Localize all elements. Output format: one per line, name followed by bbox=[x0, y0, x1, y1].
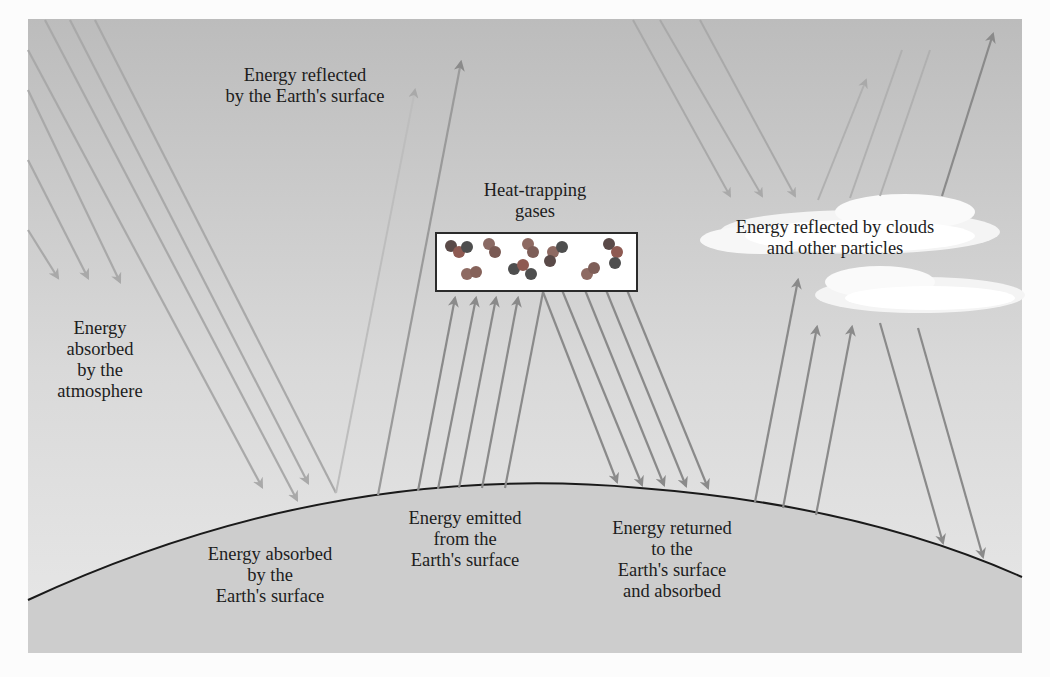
label-absorbed-by-atmosphere: Energy absorbed by the atmosphere bbox=[35, 318, 165, 402]
label-reflected-by-surface: Energy reflected by the Earth's surface bbox=[200, 65, 410, 107]
label-absorbed-by-surface: Energy absorbed by the Earth's surface bbox=[180, 544, 360, 607]
heat-trapping-gases-box bbox=[435, 232, 638, 292]
label-returned-to-surface: Energy returned to the Earth's surface a… bbox=[582, 518, 762, 602]
label-reflected-by-clouds: Energy reflected by clouds and other par… bbox=[700, 217, 970, 259]
label-emitted-from-surface: Energy emitted from the Earth's surface bbox=[385, 508, 545, 571]
label-heat-trapping-gases: Heat-trapping gases bbox=[440, 180, 630, 222]
gas-molecules-icon bbox=[437, 234, 636, 290]
